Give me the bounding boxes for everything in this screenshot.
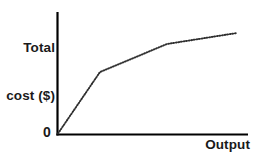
y-axis-label-line-1: Total: [0, 40, 56, 56]
y-axis-label: Total cost ($): [0, 8, 56, 136]
y-axis-label-line-2: cost ($): [0, 88, 56, 104]
x-axis-label: Output: [176, 137, 250, 153]
origin-label: 0: [30, 124, 51, 140]
total-cost-chart: Total cost ($) 0 Output: [0, 0, 254, 158]
